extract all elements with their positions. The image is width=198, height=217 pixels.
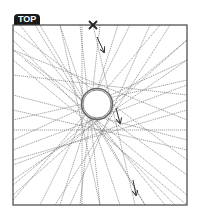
light-ray <box>40 25 130 205</box>
direction-arrow-icon <box>133 180 136 195</box>
light-ray <box>55 25 170 205</box>
central-circle <box>83 90 111 118</box>
direction-arrow-icon <box>97 37 104 52</box>
ray-diagram <box>0 0 198 217</box>
